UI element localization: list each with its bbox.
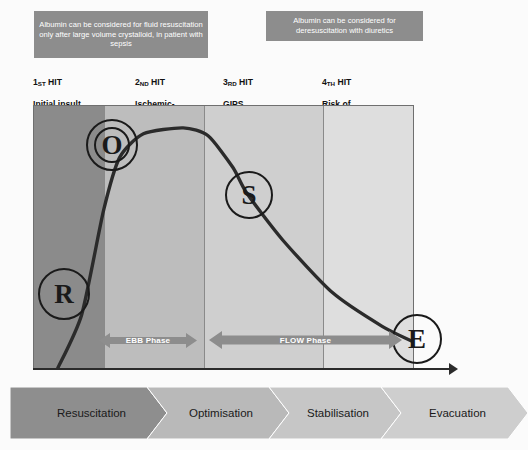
- stage-chevron-bar: Resuscitation Optimisation Stabilisation…: [10, 387, 483, 439]
- marker-stabilisation: S: [225, 171, 273, 219]
- marker-resuscitation-letter: R: [54, 281, 74, 308]
- time-axis-arrowhead: [449, 363, 458, 375]
- hit-label-1-title: 1ST HIT: [33, 77, 81, 89]
- hit-label-2-title: 2ND HIT: [135, 77, 185, 89]
- stage-chevron-optimisation[interactable]: Optimisation: [147, 387, 289, 439]
- callout-albumin-resuscitation: Albumin can be considered for fluid resu…: [34, 11, 208, 58]
- time-axis: [33, 368, 453, 370]
- flow-phase-label: FLOW Phase: [280, 336, 331, 345]
- hit-label-3-title: 3RD HIT: [223, 77, 253, 89]
- marker-resuscitation: R: [38, 268, 90, 320]
- stage-label-evacuation: Evacuation: [381, 407, 528, 419]
- stage-label-optimisation: Optimisation: [147, 407, 289, 419]
- marker-optimisation: O: [86, 119, 138, 171]
- stage-chevron-resuscitation[interactable]: Resuscitation: [10, 387, 167, 439]
- hit-label-4-title: 4TH HIT: [322, 77, 382, 89]
- stage-label-resuscitation: Resuscitation: [10, 407, 167, 419]
- marker-optimisation-ring: [94, 127, 130, 163]
- marker-evacuation-letter: E: [408, 326, 426, 353]
- ebb-phase-label: EBB Phase: [126, 336, 170, 345]
- ebb-phase-arrow: EBB Phase: [99, 331, 197, 350]
- callout-albumin-deresuscitation: Albumin can be considered for deresuscit…: [266, 11, 423, 41]
- stage-chevron-evacuation[interactable]: Evacuation: [381, 387, 528, 439]
- flow-phase-arrow: FLOW Phase: [209, 329, 402, 351]
- marker-stabilisation-letter: S: [241, 182, 256, 209]
